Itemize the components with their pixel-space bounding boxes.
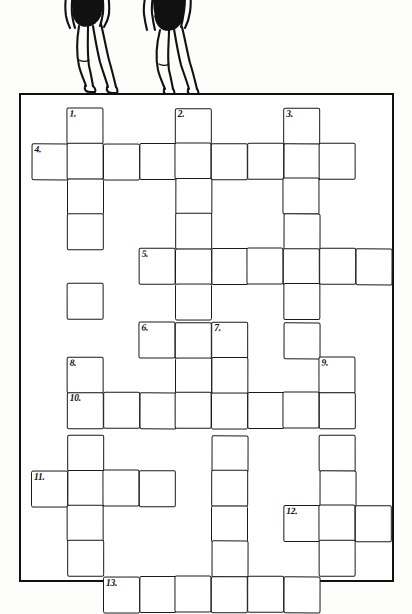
crossword-cell[interactable] [174,142,211,179]
crossword-cell[interactable] [211,576,248,613]
crossword-cell-numbered[interactable]: 1. [66,107,103,144]
crossword-cell[interactable] [319,540,356,577]
crossword-cell[interactable] [175,392,212,429]
crossword-cell[interactable] [139,576,176,613]
crossword-cell[interactable] [175,213,212,250]
cell-number: 3. [286,109,293,120]
crossword-cell[interactable] [175,322,212,359]
crossword-grid[interactable]: 1.2.3.4.5.6.7.8.9.10.11.12.13. [0,0,412,614]
crossword-cell-numbered[interactable]: 13. [103,577,140,614]
crossword-cell-numbered[interactable]: 6. [138,321,175,358]
crossword-cell-numbered[interactable]: 9. [318,356,355,393]
crossword-cell[interactable] [67,213,104,250]
crossword-cell[interactable] [355,505,392,542]
crossword-cell[interactable] [102,469,139,506]
crossword-cell[interactable] [284,143,321,180]
crossword-cell[interactable] [211,143,248,180]
cell-number: 13. [106,578,117,589]
crossword-cell[interactable] [283,248,320,285]
crossword-cell[interactable] [211,470,248,507]
crossword-cell-numbered[interactable]: 5. [139,248,176,285]
crossword-cell[interactable] [103,144,140,181]
cell-number: 10. [70,393,81,404]
cell-number: 7. [214,323,221,334]
crossword-cell[interactable] [212,540,249,577]
cell-number: 9. [321,357,328,368]
crossword-cell[interactable] [247,143,284,180]
crossword-cell[interactable] [284,213,321,250]
cell-number: 5. [142,249,149,260]
crossword-cell[interactable] [175,284,212,321]
crossword-cell[interactable] [283,283,320,320]
crossword-cell[interactable] [211,248,248,285]
crossword-cell[interactable] [284,322,321,359]
crossword-cell-numbered[interactable]: 2. [175,108,212,145]
crossword-cell[interactable] [103,392,140,429]
crossword-cell[interactable] [67,283,104,320]
crossword-cell[interactable] [246,247,283,284]
crossword-cell[interactable] [211,506,248,543]
crossword-cell[interactable] [212,435,249,472]
crossword-cell[interactable] [318,504,355,541]
crossword-cell[interactable] [67,435,104,472]
crossword-cell[interactable] [284,576,321,613]
crossword-cell[interactable] [139,143,176,180]
crossword-cell[interactable] [140,392,177,429]
crossword-cell[interactable] [211,357,248,394]
cell-number: 1. [69,108,76,119]
crossword-cell[interactable] [319,392,356,429]
crossword-cell-numbered[interactable]: 7. [211,322,248,359]
crossword-cell[interactable] [211,393,248,430]
cell-number: 6. [141,322,148,333]
crossword-cell[interactable] [247,392,284,429]
crossword-cell[interactable] [175,249,212,286]
crossword-cell[interactable] [67,540,104,577]
crossword-cell-numbered[interactable]: 12. [283,505,320,542]
crossword-cell-numbered[interactable]: 8. [67,357,104,394]
crossword-cell[interactable] [139,470,176,507]
cell-number: 4. [35,144,42,155]
crossword-cell[interactable] [282,177,319,214]
crossword-cell[interactable] [319,143,356,180]
crossword-cell-numbered[interactable]: 4. [32,143,69,180]
crossword-cell[interactable] [67,143,104,180]
crossword-cell[interactable] [174,575,211,612]
crossword-cell[interactable] [67,470,104,507]
crossword-cell-numbered[interactable]: 11. [31,471,68,508]
crossword-cell[interactable] [319,248,356,285]
crossword-cell[interactable] [67,505,104,542]
crossword-cell[interactable] [175,178,212,215]
crossword-cell[interactable] [175,358,212,395]
crossword-cell-numbered[interactable]: 3. [283,108,320,145]
crossword-cell[interactable] [67,179,104,216]
crossword-cell[interactable] [319,435,356,472]
worksheet-page: 1.2.3.4.5.6.7.8.9.10.11.12.13. [0,0,412,614]
crossword-cell[interactable] [356,248,393,285]
crossword-cell[interactable] [282,391,319,428]
crossword-cell-numbered[interactable]: 10. [67,392,104,429]
crossword-cell[interactable] [247,576,284,613]
cell-number: 12. [286,506,297,517]
cell-number: 8. [70,358,77,369]
cell-number: 2. [178,109,185,120]
crossword-cell[interactable] [320,470,357,507]
cell-number: 11. [34,472,44,483]
